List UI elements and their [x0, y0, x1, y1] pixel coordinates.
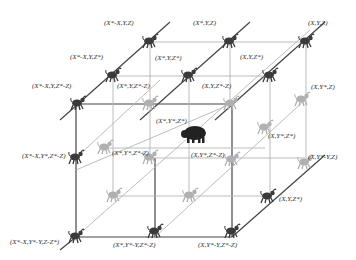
ant-figure-icon	[141, 33, 159, 49]
node-label: (X,Y*,Z*-Z)	[191, 151, 224, 159]
node-label: (X,Y*,Z)	[311, 83, 335, 91]
ant-figure-icon	[141, 95, 159, 111]
ant-figure-icon	[181, 187, 199, 203]
ant-figure-icon	[221, 33, 239, 49]
node-label: (X*-X,Y*,Z*-Z)	[22, 152, 66, 160]
ant-figure-icon	[293, 91, 311, 107]
node-label: (X*,Y,Z)	[193, 19, 216, 27]
ant-figure-icon	[69, 95, 87, 111]
node-label: (X*-X,Y*-Y,Z-Z*)	[10, 238, 59, 246]
node-label: (X,Y*-Y,Z*-Z)	[198, 241, 237, 249]
node-label: (X,Y*-Y,Z)	[308, 153, 337, 161]
ant-figure-icon	[180, 67, 198, 83]
lattice-diagram: (X*-X,Y,Z) (X*,Y,Z) (X,Y,Z) (X*-X,Y,Z*) …	[0, 0, 356, 260]
node-label: (X*-X,Y,Z)	[104, 19, 134, 27]
ant-figure-icon	[259, 188, 277, 204]
ant-figure-icon	[222, 95, 240, 111]
node-label: (X*,Y,Z*-Z)	[117, 82, 150, 90]
ant-figure-icon	[67, 149, 85, 165]
ant-figure-icon	[146, 223, 164, 239]
node-label: (X,Y,Z*-Z)	[202, 82, 231, 90]
node-label: (X,Y,Z)	[308, 19, 328, 27]
node-label: (X,Y,Z*)	[240, 53, 263, 61]
node-label: (X*-X,Y,Z*)	[70, 53, 103, 61]
ant-figure-icon	[297, 33, 315, 49]
ant-figure-icon	[104, 67, 122, 83]
ant-figure-icon	[105, 187, 123, 203]
node-label: (X*,Y*-Y,Z*-Z)	[113, 241, 156, 249]
node-label: (X*,Y*,Z*-Z)	[112, 149, 149, 157]
node-label: (X,Y*,Z*)	[268, 132, 295, 140]
node-label: (X*-X,Y,Z*-Z)	[32, 82, 71, 90]
node-label: (X,Y,Z*)	[279, 195, 302, 203]
ant-figure-icon	[67, 228, 85, 244]
ant-figure-icon	[261, 67, 279, 83]
ant-figure-icon	[223, 151, 241, 167]
ant-figure-icon	[223, 223, 241, 239]
center-label: (X*,Y*,Z*)	[156, 117, 187, 125]
center-bison-icon	[180, 124, 210, 144]
node-label: (X*,Y,Z*)	[155, 54, 182, 62]
